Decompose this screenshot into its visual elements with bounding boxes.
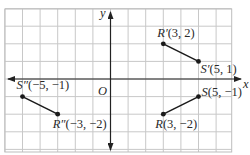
- point-rpp: [55, 112, 60, 117]
- coordinate-plane: xyOR(3, −2)S(5, −1)R′(3, 2)S′(5, 1)R″(−3…: [0, 0, 250, 155]
- origin-label: O: [98, 84, 107, 98]
- point-label-rpp: R″(−3, −2): [52, 117, 107, 131]
- y-axis-label: y: [98, 6, 106, 20]
- point-spp: [20, 94, 25, 99]
- point-label-r: R(3, −2): [154, 117, 197, 131]
- point-label-rp: R′(3, 2): [156, 26, 194, 40]
- x-axis-label: x: [242, 77, 249, 91]
- point-label-sp: S′(5, 1): [201, 62, 237, 76]
- point-label-spp: S″(−5, −1): [17, 78, 70, 92]
- point-label-s: S(5, −1): [202, 85, 242, 99]
- point-r: [161, 112, 166, 117]
- labels: xyOR(3, −2)S(5, −1)R′(3, 2)S′(5, 1)R″(−3…: [17, 6, 250, 131]
- point-s: [196, 94, 201, 99]
- point-rp: [161, 41, 166, 46]
